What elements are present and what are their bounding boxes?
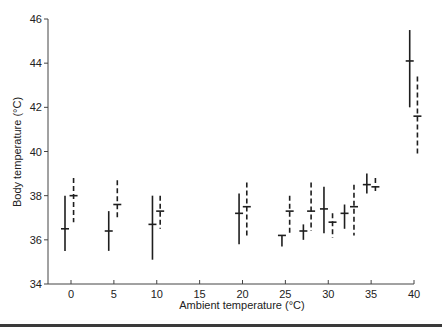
data-point (329, 213, 337, 237)
x-tick-label: 40 (408, 288, 420, 300)
y-tick-label: 40 (30, 146, 42, 158)
data-point (286, 196, 294, 234)
data-point (406, 30, 414, 107)
data-point (105, 211, 113, 251)
data-point (307, 182, 315, 231)
data-point (61, 196, 69, 251)
chart: 34363840424446 0510152025303540 Body tem… (0, 0, 442, 327)
y-tick-label: 46 (30, 13, 42, 25)
data-point (243, 182, 251, 237)
data-point (278, 235, 286, 246)
y-tick-label: 44 (30, 57, 42, 69)
y-tick-label: 36 (30, 234, 42, 246)
x-tick-label: 5 (111, 288, 117, 300)
axes (48, 19, 414, 284)
data-point (148, 196, 156, 260)
data-point (341, 205, 349, 229)
y-tick-label: 38 (30, 190, 42, 202)
y-axis-ticks: 34363840424446 (30, 13, 48, 290)
series-solid (61, 30, 414, 260)
data-point (70, 178, 78, 222)
y-axis-title: Body temperature (°C) (11, 97, 23, 207)
data-point (363, 174, 371, 194)
y-tick-label: 42 (30, 101, 42, 113)
data-point (156, 196, 164, 229)
data-point (350, 185, 358, 236)
series-dashed (70, 76, 422, 237)
data-point (299, 224, 307, 239)
data-point (371, 178, 379, 191)
data-point (320, 187, 328, 233)
x-tick-label: 35 (365, 288, 377, 300)
data-point (235, 193, 243, 244)
data-point (413, 76, 421, 156)
data-series (61, 30, 421, 260)
y-tick-label: 34 (30, 278, 42, 290)
x-tick-label: 10 (151, 288, 163, 300)
x-axis-title: Ambient temperature (°C) (179, 299, 304, 311)
x-axis-ticks: 0510152025303540 (68, 280, 420, 300)
x-tick-label: 30 (322, 288, 334, 300)
x-tick-label: 0 (68, 288, 74, 300)
data-point (113, 180, 121, 220)
